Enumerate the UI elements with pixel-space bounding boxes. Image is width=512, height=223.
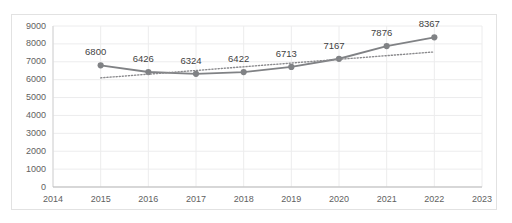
chart-plot-area	[12, 15, 498, 211]
x-axis-tick-label: 2019	[271, 195, 311, 204]
y-axis-tick-label: 2000	[26, 147, 46, 156]
y-axis-tick-label: 0	[41, 183, 46, 192]
x-axis-tick-label: 2015	[81, 195, 121, 204]
x-axis-tick-label: 2018	[224, 195, 264, 204]
y-axis-tick-label: 3000	[26, 129, 46, 138]
data-point-label: 6324	[171, 56, 211, 66]
y-axis-tick-label: 7000	[26, 57, 46, 66]
data-point-label: 6422	[219, 54, 259, 64]
y-axis-tick-label: 6000	[26, 75, 46, 84]
data-point-label: 7876	[362, 28, 402, 38]
x-axis-tick-label: 2021	[367, 195, 407, 204]
chart-container: 0100020003000400050006000700080009000201…	[11, 14, 497, 210]
data-point-label: 6426	[123, 54, 163, 64]
y-axis-tick-label: 9000	[26, 22, 46, 31]
x-axis-tick-label: 2017	[176, 195, 216, 204]
y-axis-tick-label: 4000	[26, 111, 46, 120]
data-point-label: 6800	[76, 47, 116, 57]
data-point-marker	[431, 34, 437, 40]
x-axis-tick-label: 2023	[462, 195, 502, 204]
data-point-marker	[288, 64, 294, 70]
data-point-marker	[384, 43, 390, 49]
y-axis-tick-label: 1000	[26, 165, 46, 174]
data-point-marker	[193, 71, 199, 77]
data-point-marker	[241, 69, 247, 75]
data-point-label: 7167	[314, 41, 354, 51]
data-point-label: 8367	[409, 19, 449, 29]
data-point-marker	[98, 62, 104, 68]
x-axis-tick-label: 2020	[319, 195, 359, 204]
y-axis-tick-label: 8000	[26, 39, 46, 48]
y-axis-tick-label: 5000	[26, 93, 46, 102]
x-axis-tick-label: 2022	[414, 195, 454, 204]
x-axis-tick-label: 2016	[128, 195, 168, 204]
data-point-label: 6713	[266, 49, 306, 59]
x-axis-tick-label: 2014	[33, 195, 73, 204]
